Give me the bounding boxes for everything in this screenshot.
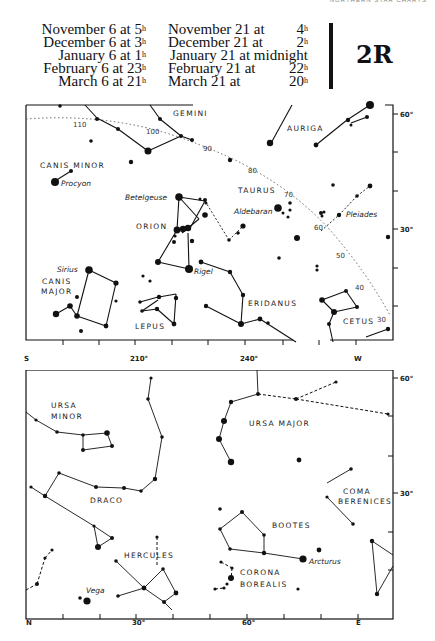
times-column-6th: November 6 at 5h December 6 at 3h Januar… (38, 23, 146, 88)
ecliptic-mark: 30 (377, 316, 386, 324)
x-tick-label: 60° (242, 619, 255, 627)
constellation-label: COMA (343, 487, 371, 496)
constellation-label: AURIGA (287, 124, 324, 133)
x-tick-label: 30° (132, 619, 145, 627)
y-tick-label: 30° (400, 226, 413, 234)
running-head: NORTHERN STAR CHARTS (330, 0, 427, 3)
times-column-21st: November 21 at4h December 21 at2h Januar… (168, 23, 308, 88)
constellation-label: GEMINI (173, 109, 208, 118)
lower-star-chart: URSA MINOR URSA MAJOR DRACO COMA BERENIC… (0, 370, 435, 641)
ecliptic-mark: 40 (355, 284, 364, 292)
star-label: Arcturus (308, 557, 341, 566)
ecliptic-mark: 90 (203, 145, 212, 153)
star-label: Aldebaran (233, 207, 273, 216)
y-tick-label: 30° (400, 490, 413, 498)
constellation-label: ORION (136, 222, 167, 231)
ecliptic-mark: 110 (73, 121, 86, 129)
y-tick-label: 60° (400, 375, 413, 383)
star-label: Procyon (61, 179, 91, 188)
star-label: Rigel (194, 267, 214, 276)
upper-star-chart: 110 100 90 80 70 60 50 40 30 GEMINI AURI… (0, 95, 435, 375)
constellation-label: URSA MAJOR (249, 419, 310, 428)
constellation-label: CORONA (240, 568, 281, 577)
constellation-label: CETUS (343, 317, 374, 326)
constellation-label: BOREALIS (240, 580, 288, 589)
x-tick-label: 210° (130, 355, 148, 363)
direction-label: N (26, 619, 32, 627)
time-row: March 21 at20h (168, 75, 308, 88)
constellation-label: MAJOR (41, 287, 72, 296)
constellation-label: CANIS MINOR (40, 161, 105, 170)
star-label: Sirius (57, 265, 78, 274)
ecliptic-mark: 70 (284, 191, 293, 199)
direction-label: E (356, 619, 361, 627)
ecliptic-mark: 50 (336, 252, 345, 260)
constellation-label: ERIDANUS (248, 299, 297, 308)
star-label: Vega (86, 586, 105, 595)
constellation-label: CANIS (42, 277, 71, 286)
constellation-label: MINOR (51, 412, 83, 421)
constellation-label: HERCULES (124, 551, 174, 560)
direction-label: S (24, 355, 29, 363)
constellation-label: TAURUS (237, 186, 276, 195)
ecliptic-mark: 100 (146, 128, 159, 136)
star-label: Betelgeuse (125, 193, 167, 202)
constellation-label: LEPUS (135, 322, 165, 331)
divider-bar (329, 23, 333, 89)
x-tick-label: 240° (240, 355, 258, 363)
constellation-label: BERENICES (338, 497, 392, 506)
constellation-label: BOOTES (272, 521, 311, 530)
chart-number: 2R (356, 40, 393, 69)
time-row: March 6 at 21h (38, 75, 146, 88)
constellation-label: URSA (51, 401, 77, 410)
star-label: Pleiades (346, 210, 377, 219)
y-tick-label: 60° (400, 111, 413, 119)
ecliptic-mark: 60 (314, 224, 323, 232)
ecliptic-mark: 80 (248, 167, 257, 175)
constellation-label: DRACO (90, 496, 123, 505)
direction-label: W (354, 355, 362, 363)
